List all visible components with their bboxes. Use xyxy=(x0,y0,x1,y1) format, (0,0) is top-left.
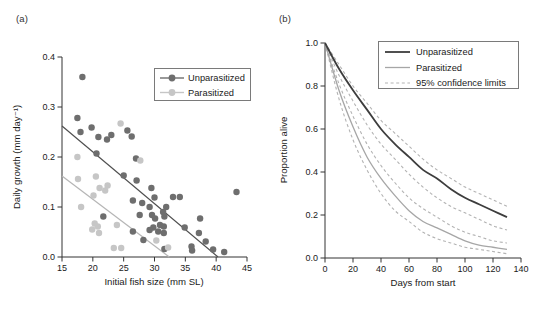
y-tick-label: 0.0 xyxy=(305,253,318,263)
scatter-point-unparasitized xyxy=(210,246,216,252)
trend-line-unparasitized xyxy=(62,126,218,257)
scatter-point-parasitized xyxy=(117,120,123,126)
scatter-point-unparasitized xyxy=(95,134,101,140)
legend-label: Parasitized xyxy=(188,88,234,98)
scatter-point-unparasitized xyxy=(161,213,167,219)
scatter-point-parasitized xyxy=(93,173,99,179)
y-tick-label: 0.0 xyxy=(42,252,55,262)
scatter-point-unparasitized xyxy=(177,194,183,200)
scatter-point-unparasitized xyxy=(182,224,188,230)
scatter-point-parasitized xyxy=(78,204,84,210)
y-tick-label: 0.2 xyxy=(42,152,55,162)
y-tick-label: 0.1 xyxy=(42,202,55,212)
y-tick-label: 0.4 xyxy=(42,52,55,62)
legend-label: 95% confidence limits xyxy=(416,78,506,88)
scatter-point-unparasitized xyxy=(140,237,146,243)
scatter-point-parasitized xyxy=(96,185,102,191)
x-tick-label: 30 xyxy=(149,263,159,273)
scatter-point-parasitized xyxy=(95,223,101,229)
scatter-point-unparasitized xyxy=(203,238,209,244)
y-tick-label: 0.2 xyxy=(305,210,318,220)
x-tick-label: 140 xyxy=(513,264,528,274)
scatter-point-unparasitized xyxy=(124,127,130,133)
survival-curve-plot: 0.00.20.40.60.81.0020406080100120140Days… xyxy=(273,0,547,311)
x-tick-label: 15 xyxy=(57,263,67,273)
scatter-point-unparasitized xyxy=(155,228,161,234)
x-tick-label: 25 xyxy=(119,263,129,273)
x-axis-title: Initial fish size (mm SL) xyxy=(104,276,203,287)
x-axis-title: Days from start xyxy=(390,277,455,288)
scatter-point-unparasitized xyxy=(108,132,114,138)
x-tick-label: 35 xyxy=(180,263,190,273)
scatter-point-parasitized xyxy=(118,245,124,251)
scatter-point-unparasitized xyxy=(189,247,195,253)
scatter-point-unparasitized xyxy=(146,227,152,233)
scatter-point-unparasitized xyxy=(152,215,158,221)
scatter-point-unparasitized xyxy=(151,194,157,200)
legend-label: Unparasitized xyxy=(188,73,245,83)
scatter-point-unparasitized xyxy=(130,197,136,203)
scatter-point-parasitized xyxy=(96,230,102,236)
y-axis-title: Daily growth (mm day⁻¹) xyxy=(11,105,22,209)
scatter-point-parasitized xyxy=(89,226,95,232)
x-tick-label: 40 xyxy=(211,263,221,273)
scatter-point-unparasitized xyxy=(196,230,202,236)
scatter-point-unparasitized xyxy=(137,212,143,218)
scatter-point-unparasitized xyxy=(133,177,139,183)
legend-marker xyxy=(169,89,176,96)
scatter-point-unparasitized xyxy=(121,172,127,178)
scatter-point-parasitized xyxy=(90,192,96,198)
x-tick-label: 120 xyxy=(485,264,500,274)
scatter-point-parasitized xyxy=(75,176,81,182)
x-tick-label: 80 xyxy=(432,264,442,274)
legend-label: Unparasitized xyxy=(416,47,473,57)
scatter-point-unparasitized xyxy=(221,249,227,255)
scatter-point-unparasitized xyxy=(88,124,94,130)
scatter-point-unparasitized xyxy=(93,150,99,156)
scatter-point-unparasitized xyxy=(74,115,80,121)
scatter-point-unparasitized xyxy=(79,74,85,80)
scatter-point-unparasitized xyxy=(100,213,106,219)
scatter-point-parasitized xyxy=(114,222,120,228)
scatter-point-unparasitized xyxy=(161,230,167,236)
legend-label: Parasitized xyxy=(416,63,462,73)
scatter-point-unparasitized xyxy=(233,189,239,195)
y-tick-label: 1.0 xyxy=(305,38,318,48)
legend-marker xyxy=(169,75,176,82)
scatter-point-parasitized xyxy=(102,187,108,193)
y-axis-title: Proportion alive xyxy=(278,117,289,184)
scatter-point-parasitized xyxy=(153,237,159,243)
scatter-point-unparasitized xyxy=(170,194,176,200)
scatter-point-parasitized xyxy=(137,157,143,163)
y-tick-label: 0.8 xyxy=(305,81,318,91)
scatter-point-unparasitized xyxy=(148,185,154,191)
scatter-point-unparasitized xyxy=(161,223,167,229)
scatter-point-unparasitized xyxy=(197,215,203,221)
x-tick-label: 20 xyxy=(348,264,358,274)
y-tick-label: 0.4 xyxy=(305,167,318,177)
scatter-plot-growth-vs-size: 0.00.10.20.30.415202530354045Initial fis… xyxy=(0,0,273,311)
scatter-point-unparasitized xyxy=(129,133,135,139)
x-tick-label: 0 xyxy=(322,264,327,274)
scatter-point-unparasitized xyxy=(77,129,83,135)
scatter-point-parasitized xyxy=(165,244,171,250)
scatter-point-unparasitized xyxy=(139,200,145,206)
scatter-point-unparasitized xyxy=(130,228,136,234)
y-tick-label: 0.6 xyxy=(305,124,318,134)
x-tick-label: 20 xyxy=(88,263,98,273)
x-tick-label: 100 xyxy=(457,264,472,274)
scatter-point-parasitized xyxy=(74,154,80,160)
x-tick-label: 45 xyxy=(242,263,252,273)
x-tick-label: 60 xyxy=(404,264,414,274)
scatter-point-unparasitized xyxy=(146,204,152,210)
two-panel-figure: (a) (b) 0.00.10.20.30.415202530354045Ini… xyxy=(0,0,547,311)
y-tick-label: 0.3 xyxy=(42,102,55,112)
scatter-point-parasitized xyxy=(111,245,117,251)
x-tick-label: 40 xyxy=(376,264,386,274)
